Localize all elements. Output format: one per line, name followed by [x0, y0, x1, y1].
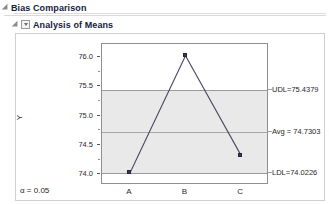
y-axis-tick-label: 75.0 [78, 110, 93, 119]
chevron-down-icon[interactable] [21, 20, 30, 29]
caret-glyph [24, 23, 28, 26]
analysis-of-means-report: Bias Comparison Analysis of Means Y 74.0… [0, 0, 329, 204]
alpha-level-note: α = 0.05 [20, 186, 49, 195]
y-axis-tick-mark [97, 85, 100, 86]
y-axis-tick-mark [97, 56, 100, 57]
x-axis-tick-label: A [126, 187, 131, 196]
triangle-down-icon[interactable] [12, 20, 20, 28]
reference-line-label-ldl: LDL=74.0226 [272, 168, 317, 177]
y-axis-minor-tick [98, 100, 100, 101]
reference-line-label-avg: Avg = 74.7303 [272, 126, 320, 135]
chart-panel: Y 74.074.575.075.576.0 ABC Operator UDL=… [15, 33, 325, 201]
outline-title-bias-comparison: Bias Comparison [11, 3, 87, 13]
outline-divider-level1 [4, 15, 326, 16]
y-axis-tick-label: 76.0 [78, 51, 93, 60]
y-axis-tick-mark [97, 115, 100, 116]
y-axis-title: Y [15, 115, 24, 120]
reference-line-label-udl: UDL=75.4379 [272, 84, 319, 93]
outline-title-analysis-of-means: Analysis of Means [33, 20, 113, 30]
y-axis-minor-tick [98, 129, 100, 130]
outline-header-analysis-of-means[interactable]: Analysis of Means [14, 18, 113, 31]
x-axis-tick-label: C [237, 187, 243, 196]
plot-area [101, 43, 268, 184]
y-axis-minor-tick [98, 71, 100, 72]
y-axis-minor-tick [98, 159, 100, 160]
triangle-down-icon[interactable] [2, 4, 10, 12]
y-axis-tick-mark [97, 144, 100, 145]
x-axis-tick-label: B [182, 187, 187, 196]
y-axis-tick-label: 74.5 [78, 140, 93, 149]
series-polyline [101, 43, 268, 184]
y-axis-tick-label: 74.0 [78, 169, 93, 178]
outline-divider-level2 [14, 13, 326, 14]
y-axis-tick-mark [97, 173, 100, 174]
y-axis-tick-label: 75.5 [78, 81, 93, 90]
